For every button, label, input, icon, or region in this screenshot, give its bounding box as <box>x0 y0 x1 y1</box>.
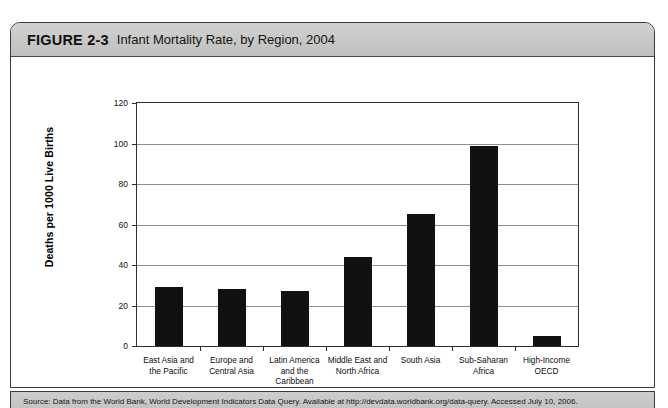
x-axis-tick <box>452 346 453 351</box>
gridline <box>137 144 578 145</box>
y-axis-tick <box>132 225 137 226</box>
y-axis-tick-label: 120 <box>114 98 128 108</box>
y-axis-tick-label: 100 <box>114 139 128 149</box>
y-axis-tick-label: 40 <box>119 260 128 270</box>
y-axis-tick <box>132 306 137 307</box>
figure-number-label: FIGURE 2-3 <box>27 32 109 48</box>
x-axis-tick <box>263 346 264 351</box>
y-axis-tick-label: 80 <box>119 179 128 189</box>
bar <box>407 214 435 346</box>
x-axis-tick <box>515 346 516 351</box>
figure-source-band: Source: Data from the World Bank, World … <box>10 391 655 408</box>
bar <box>281 291 309 346</box>
y-axis-title: Deaths per 1000 Live Births <box>43 107 55 287</box>
plot-area: 020406080100120East Asia andthe PacificE… <box>136 102 579 347</box>
bar <box>533 336 561 346</box>
bar <box>470 146 498 346</box>
figure-title-bar: FIGURE 2-3 Infant Mortality Rate, by Reg… <box>11 23 654 57</box>
y-axis-tick-label: 0 <box>123 341 128 351</box>
bar <box>218 289 246 346</box>
x-axis-tick <box>389 346 390 351</box>
x-axis-tick <box>326 346 327 351</box>
y-axis-tick <box>132 346 137 347</box>
bar <box>155 287 183 346</box>
x-axis-tick <box>200 346 201 351</box>
figure-source-text: Source: Data from the World Bank, World … <box>23 397 578 406</box>
figure-container: FIGURE 2-3 Infant Mortality Rate, by Reg… <box>10 22 655 388</box>
gridline <box>137 225 578 226</box>
chart-area: Deaths per 1000 Live Births 020406080100… <box>11 57 655 387</box>
x-axis-category-label: High-IncomeOECD <box>504 355 590 376</box>
figure-caption: Infant Mortality Rate, by Region, 2004 <box>117 32 335 47</box>
gridline <box>137 184 578 185</box>
y-axis-tick-label: 60 <box>119 220 128 230</box>
y-axis-tick <box>132 103 137 104</box>
y-axis-tick <box>132 184 137 185</box>
y-axis-tick-label: 20 <box>119 301 128 311</box>
bar <box>344 257 372 346</box>
y-axis-tick <box>132 144 137 145</box>
y-axis-tick <box>132 265 137 266</box>
